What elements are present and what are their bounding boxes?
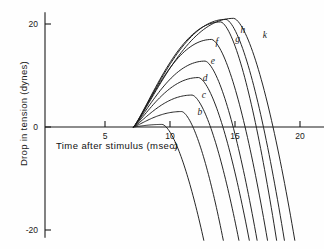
x-tick-label-3: 20 [295,131,305,141]
curve-label-c: c [202,90,207,100]
y-tick-label-1: 0 [33,122,38,132]
y-tick-label-0: 20 [29,19,39,29]
curve-d [134,78,250,241]
x-axis-title: Time after stimulus (msec) [56,140,178,151]
curve-label-k: k [263,30,268,40]
curve-g [134,22,277,240]
chart-plot-area: 200-205101520abcdefghk [0,0,324,249]
curve-k [134,18,295,240]
curve-label-f: f [215,37,219,47]
curve-c [134,95,239,240]
curve-label-d: d [203,73,208,83]
curve-label-b: b [198,107,203,117]
y-tick-label-2: -20 [26,225,39,235]
y-axis-title: Drop in tension (dynes) [18,39,29,189]
curve-label-e: e [211,56,215,66]
curve-label-g: g [235,34,240,44]
curve-b [134,112,224,241]
figure-canvas: 200-205101520abcdefghk Drop in tension (… [0,0,324,249]
curve-label-h: h [240,25,245,35]
